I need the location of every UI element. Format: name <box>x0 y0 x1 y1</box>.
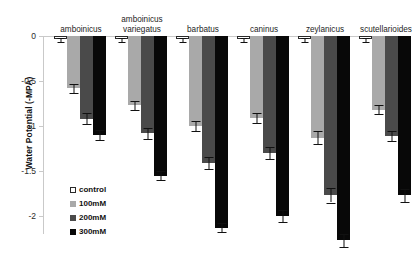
group-label: zeylanicus <box>306 25 344 35</box>
error-bar-cap <box>326 203 335 204</box>
bar-control <box>237 36 250 39</box>
error-bar-cap <box>95 140 104 141</box>
error-bar <box>86 113 87 124</box>
error-bar-cap <box>374 105 383 106</box>
legend-swatch-200mm-icon <box>70 215 76 221</box>
bar-c200 <box>263 36 276 153</box>
chart-legend: control 100mM 200mM 300mM <box>70 183 136 239</box>
error-bar-cap <box>313 131 322 132</box>
bar-group: scutellarioides <box>357 36 415 252</box>
error-bar-cap <box>156 180 165 181</box>
error-bar-cap <box>374 114 383 115</box>
group-label: barbatus <box>187 25 219 35</box>
error-bar-cap <box>240 38 247 39</box>
y-tick-mark <box>39 216 43 217</box>
error-bar-cap <box>400 202 409 203</box>
error-bar <box>99 130 100 141</box>
y-tick-label: -1.5 <box>4 166 36 176</box>
error-bar-cap <box>69 84 78 85</box>
error-bar <box>147 128 148 139</box>
group-label: amboinicus <box>60 25 101 35</box>
bar-c100 <box>311 36 324 138</box>
bar-control <box>298 36 311 39</box>
error-bar-cap <box>118 42 125 43</box>
legend-swatch-300mm-icon <box>70 229 76 235</box>
group-label: amboinicus variegatus <box>114 15 170 35</box>
error-bar <box>73 84 74 93</box>
bar-control <box>359 36 372 39</box>
error-bar <box>404 189 405 202</box>
error-bar <box>221 223 222 232</box>
legend-swatch-100mm-icon <box>70 201 76 207</box>
error-bar-cap <box>252 113 261 114</box>
legend-swatch-control-icon <box>70 187 76 193</box>
error-bar-cap <box>82 124 91 125</box>
error-bar-cap <box>362 38 369 39</box>
error-bar-cap <box>130 101 139 102</box>
bar-group: zeylanicus <box>296 36 354 252</box>
group-label: caninus <box>250 25 278 35</box>
group-label: scutellarioides <box>360 25 412 35</box>
error-bar <box>391 131 392 142</box>
legend-label-100mm: 100mM <box>79 199 106 208</box>
error-bar-cap <box>179 38 186 39</box>
error-bar-cap <box>217 232 226 233</box>
legend-item-control: control <box>70 183 136 196</box>
bar-c100 <box>189 36 202 126</box>
y-tick-label: 0 <box>4 31 36 41</box>
bar-c100 <box>250 36 263 118</box>
error-bar-cap <box>301 42 308 43</box>
legend-item-100mm: 100mM <box>70 197 136 210</box>
legend-item-200mm: 200mM <box>70 211 136 224</box>
error-bar-cap <box>326 188 335 189</box>
error-bar <box>256 113 257 124</box>
error-bar <box>282 210 283 223</box>
y-tick-mark <box>39 126 43 127</box>
error-bar <box>208 157 209 170</box>
bar-c100 <box>128 36 141 105</box>
error-bar-cap <box>118 38 125 39</box>
error-bar-cap <box>179 42 186 43</box>
error-bar-cap <box>265 147 274 148</box>
error-bar-cap <box>387 141 396 142</box>
error-bar <box>269 147 270 160</box>
y-tick-mark <box>39 171 43 172</box>
bar-c300 <box>276 36 289 216</box>
bar-c100 <box>67 36 80 88</box>
error-bar-cap <box>82 113 91 114</box>
error-bar-cap <box>204 157 213 158</box>
bar-group: caninus <box>235 36 293 252</box>
error-bar <box>343 234 344 247</box>
error-bar-cap <box>339 234 348 235</box>
error-bar <box>378 105 379 114</box>
error-bar <box>160 171 161 180</box>
error-bar-cap <box>204 169 213 170</box>
error-bar-cap <box>191 121 200 122</box>
error-bar-cap <box>278 210 287 211</box>
error-bar <box>195 121 196 132</box>
error-bar-cap <box>95 130 104 131</box>
y-tick-mark <box>39 36 43 37</box>
bar-c200 <box>80 36 93 119</box>
bar-control <box>115 36 128 39</box>
error-bar-cap <box>143 139 152 140</box>
error-bar-cap <box>57 38 64 39</box>
bar-c200 <box>385 36 398 136</box>
error-bar-cap <box>278 222 287 223</box>
error-bar-cap <box>130 110 139 111</box>
legend-label-200mm: 200mM <box>79 213 106 222</box>
bar-c100 <box>372 36 385 110</box>
bar-control <box>54 36 67 39</box>
bar-c200 <box>141 36 154 133</box>
error-bar-cap <box>240 42 247 43</box>
bar-c200 <box>324 36 337 195</box>
y-tick-label: -1 <box>4 121 36 131</box>
error-bar-cap <box>301 38 308 39</box>
bar-group: barbatus <box>174 36 232 252</box>
error-bar-cap <box>57 42 64 43</box>
error-bar <box>134 101 135 110</box>
bar-c200 <box>202 36 215 163</box>
error-bar-cap <box>362 42 369 43</box>
legend-item-300mm: 300mM <box>70 225 136 238</box>
legend-label-control: control <box>79 185 106 194</box>
